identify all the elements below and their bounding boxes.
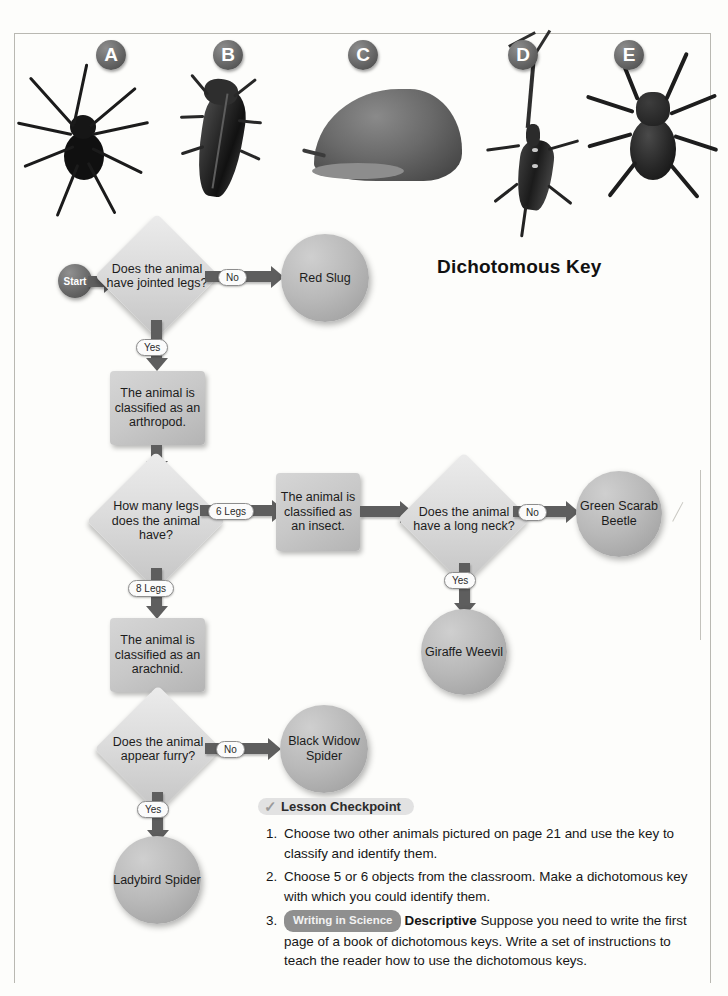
flow-node-long-neck-label: Does the animal have a long neck? [408,505,520,534]
edge-label-eight-legs: 8 Legs [128,580,174,597]
flow-node-arachnid-label: The animal is classified as an arachnid. [114,633,201,677]
flow-node-insect[interactable]: The animal is classified as an insect. [276,473,360,551]
flow-node-ladybird-spider[interactable]: Ladybird Spider [113,836,201,924]
checkpoint-item-2: Choose 5 or 6 objects from the classroom… [281,867,706,906]
writing-in-science-badge: Writing in Science [284,910,401,932]
edge-label-yes-furry: Yes [137,801,169,818]
checkpoint-item-3-lead: Descriptive [404,913,476,928]
checkpoint-item-1: Choose two other animals pictured on pag… [281,824,706,863]
edge-insect-to-neck [360,506,400,517]
flow-node-ladybird-spider-label: Ladybird Spider [113,873,201,888]
flow-node-arthropod-label: The animal is classified as an arthropod… [114,386,201,430]
flow-node-green-scarab-beetle[interactable]: Green Scarab Beetle [576,471,662,557]
flow-node-insect-label: The animal is classified as an insect. [280,490,356,534]
flow-node-red-slug[interactable]: Red Slug [281,234,369,322]
flow-node-jointed-legs-label: Does the animal have jointed legs? [105,262,209,291]
checkpoint-item-2-text: Choose 5 or 6 objects from the classroom… [284,869,687,904]
specimen-label-a: A [96,40,126,70]
specimen-label-b: B [213,40,243,70]
flow-node-black-widow-spider-label: Black Widow Spider [280,734,368,764]
chart-title: Dichotomous Key [437,256,602,278]
flow-node-green-scarab-beetle-label: Green Scarab Beetle [576,499,662,529]
flow-node-giraffe-weevil-label: Giraffe Weevil [425,645,503,660]
flow-node-arachnid[interactable]: The animal is classified as an arachnid. [110,618,205,692]
flow-node-furry-label: Does the animal appear furry? [104,735,212,764]
lesson-checkpoint: ✓ Lesson Checkpoint Choose two other ani… [258,798,706,975]
flow-node-giraffe-weevil[interactable]: Giraffe Weevil [421,609,507,695]
edge-label-no-neck: No [518,504,547,521]
check-icon: ✓ [264,799,277,814]
edge-label-six-legs: 6 Legs [208,503,254,520]
flow-node-how-many-legs-label: How many legs does the animal have? [98,499,214,543]
lesson-checkpoint-list: Choose two other animals pictured on pag… [258,824,706,971]
flow-node-arthropod[interactable]: The animal is classified as an arthropod… [110,371,205,445]
specimen-label-c: C [348,40,378,70]
checkpoint-item-3: Writing in ScienceDescriptive Suppose yo… [281,910,706,971]
specimen-label-d: D [508,40,538,70]
lesson-checkpoint-header: ✓ Lesson Checkpoint [258,798,414,815]
flow-node-start[interactable]: Start [58,264,92,298]
specimen-label-e: E [614,40,644,70]
flow-node-black-widow-spider[interactable]: Black Widow Spider [280,705,368,793]
edge-label-yes-jointed: Yes [136,339,168,356]
edge-label-no-furry: No [216,741,245,758]
checkpoint-item-1-text: Choose two other animals pictured on pag… [284,826,674,861]
edge-label-no-jointed: No [218,269,247,286]
flow-node-red-slug-label: Red Slug [299,271,350,286]
lesson-checkpoint-title: Lesson Checkpoint [281,799,401,814]
edge-label-yes-neck: Yes [444,572,476,589]
